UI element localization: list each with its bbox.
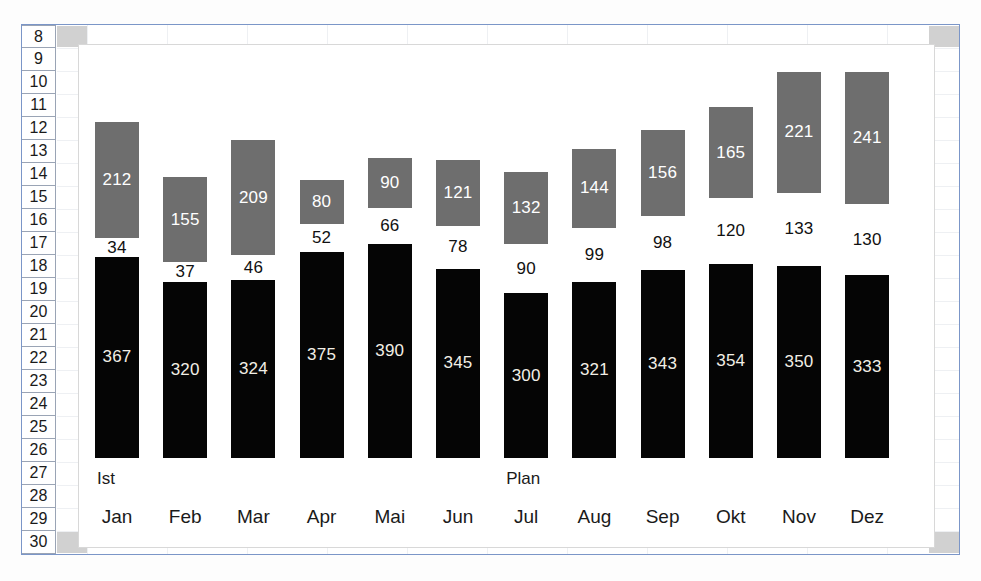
row-header[interactable]: 12 (22, 117, 56, 140)
bar-value-label: 345 (436, 353, 480, 373)
row-header[interactable]: 17 (22, 232, 56, 255)
bar-value-label: 390 (368, 341, 412, 361)
bar-value-label: 209 (231, 188, 275, 208)
bar-segment-spacer[interactable]: 66 (368, 208, 412, 244)
bar-segment-plan[interactable]: 144 (572, 149, 616, 228)
bar-segment-plan[interactable]: 212 (95, 122, 139, 238)
bar-value-label: 367 (95, 347, 139, 367)
bar-segment-spacer[interactable]: 34 (95, 238, 139, 257)
row-header[interactable]: 22 (22, 347, 56, 370)
row-header[interactable]: 19 (22, 278, 56, 301)
bar-segment-spacer[interactable]: 120 (709, 198, 753, 264)
row-header-column[interactable]: 8910111213141516171819202122232425262728… (22, 25, 56, 554)
bar-segment-ist[interactable]: 343 (641, 270, 685, 458)
bar-segment-spacer[interactable]: 78 (436, 226, 480, 269)
bar-value-label: 155 (163, 210, 207, 230)
bar-segment-plan[interactable]: 241 (845, 72, 889, 204)
row-header[interactable]: 14 (22, 163, 56, 186)
bar-value-label: 90 (368, 173, 412, 193)
bar-value-label: 66 (368, 216, 412, 236)
bar-segment-ist[interactable]: 350 (777, 266, 821, 458)
row-header[interactable]: 23 (22, 370, 56, 393)
bar-segment-plan[interactable]: 221 (777, 72, 821, 193)
row-header[interactable]: 30 (22, 531, 56, 554)
row-header[interactable]: 21 (22, 324, 56, 347)
row-header[interactable]: 13 (22, 140, 56, 163)
bar-segment-ist[interactable]: 367 (95, 257, 139, 458)
bar-value-label: 221 (777, 122, 821, 142)
bar-segment-ist[interactable]: 390 (368, 244, 412, 458)
category-label: Okt (709, 506, 753, 528)
bar-value-label: 212 (95, 170, 139, 190)
category-label: Sep (641, 506, 685, 528)
bar-segment-plan[interactable]: 155 (163, 177, 207, 262)
bar-segment-spacer[interactable]: 46 (231, 255, 275, 280)
row-header[interactable]: 29 (22, 508, 56, 531)
bar-segment-ist[interactable]: 333 (845, 275, 889, 458)
bar-value-label: 354 (709, 351, 753, 371)
row-header[interactable]: 27 (22, 462, 56, 485)
chart-bar[interactable]: 20946324 (231, 140, 275, 458)
series-annotation-plan: Plan (506, 469, 540, 489)
chart-bar[interactable]: 241130333 (845, 72, 889, 458)
bar-segment-spacer[interactable]: 90 (504, 244, 548, 293)
bar-value-label: 90 (504, 259, 548, 279)
bar-value-label: 37 (163, 262, 207, 282)
row-header[interactable]: 28 (22, 485, 56, 508)
chart-plot-area: 21234367Jan15537320Feb20946324Mar8052375… (79, 45, 934, 547)
row-header[interactable]: 25 (22, 416, 56, 439)
bar-segment-ist[interactable]: 324 (231, 280, 275, 458)
bar-segment-plan[interactable]: 209 (231, 140, 275, 255)
row-header[interactable]: 24 (22, 393, 56, 416)
chart-bar[interactable]: 15698343 (641, 130, 685, 458)
chart-bar[interactable]: 165120354 (709, 107, 753, 458)
row-header[interactable]: 26 (22, 439, 56, 462)
row-header[interactable]: 16 (22, 209, 56, 232)
chart-bar[interactable]: 21234367 (95, 122, 139, 458)
chart-bar[interactable]: 13290300 (504, 172, 548, 458)
bar-value-label: 121 (436, 183, 480, 203)
bar-value-label: 120 (709, 221, 753, 241)
bar-segment-ist[interactable]: 375 (300, 252, 344, 458)
row-header[interactable]: 11 (22, 94, 56, 117)
category-label: Jul (504, 506, 548, 528)
bar-segment-plan[interactable]: 80 (300, 180, 344, 224)
bar-segment-spacer[interactable]: 52 (300, 224, 344, 253)
row-header[interactable]: 8 (22, 25, 56, 48)
bar-segment-spacer[interactable]: 37 (163, 262, 207, 282)
category-label: Dez (845, 506, 889, 528)
bar-segment-ist[interactable]: 320 (163, 282, 207, 458)
chart-bar[interactable]: 9066390 (368, 158, 412, 458)
bar-segment-plan[interactable]: 165 (709, 107, 753, 198)
category-label: Mai (368, 506, 412, 528)
bar-segment-plan[interactable]: 90 (368, 158, 412, 207)
chart-bar[interactable]: 14499321 (572, 149, 616, 458)
bar-segment-ist[interactable]: 321 (572, 282, 616, 458)
bar-segment-spacer[interactable]: 133 (777, 193, 821, 266)
bar-segment-ist[interactable]: 354 (709, 264, 753, 458)
bar-segment-ist[interactable]: 345 (436, 269, 480, 458)
chart-bar[interactable]: 15537320 (163, 177, 207, 458)
row-header[interactable]: 9 (22, 48, 56, 71)
bar-value-label: 99 (572, 245, 616, 265)
bar-segment-spacer[interactable]: 99 (572, 228, 616, 282)
bar-value-label: 78 (436, 237, 480, 257)
bar-value-label: 165 (709, 143, 753, 163)
bar-segment-spacer[interactable]: 98 (641, 216, 685, 270)
chart-bar[interactable]: 12178345 (436, 160, 480, 458)
category-label: Feb (163, 506, 207, 528)
row-header[interactable]: 15 (22, 186, 56, 209)
row-header[interactable]: 20 (22, 301, 56, 324)
row-header[interactable]: 10 (22, 71, 56, 94)
row-header[interactable]: 18 (22, 255, 56, 278)
bar-segment-plan[interactable]: 132 (504, 172, 548, 244)
stacked-column-chart[interactable]: 21234367Jan15537320Feb20946324Mar8052375… (78, 44, 935, 548)
bar-segment-ist[interactable]: 300 (504, 293, 548, 458)
bar-segment-plan[interactable]: 121 (436, 160, 480, 226)
bar-value-label: 144 (572, 178, 616, 198)
chart-bar[interactable]: 221133350 (777, 72, 821, 458)
chart-bar[interactable]: 8052375 (300, 180, 344, 458)
bar-segment-plan[interactable]: 156 (641, 130, 685, 216)
bar-value-label: 241 (845, 128, 889, 148)
bar-segment-spacer[interactable]: 130 (845, 204, 889, 275)
